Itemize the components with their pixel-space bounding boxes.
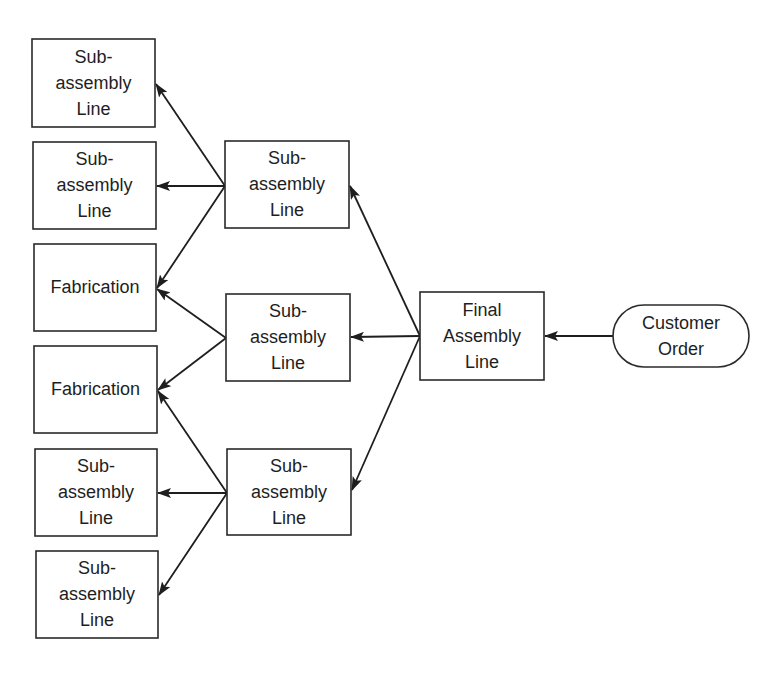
node-n_sub_l5: Sub-assemblyLine bbox=[35, 449, 157, 536]
node-label-line: Line bbox=[271, 353, 305, 373]
node-label-line: assembly bbox=[56, 175, 132, 195]
node-label-line: assembly bbox=[249, 174, 325, 194]
arrow-n_sub_m1-to-n_sub_l1 bbox=[156, 84, 225, 186]
arrow-n_sub_m2-to-n_fab_1 bbox=[157, 289, 226, 338]
node-n_sub_l1: Sub-assemblyLine bbox=[32, 39, 155, 127]
arrow-n_final-to-n_sub_m3 bbox=[352, 336, 420, 490]
arrow-n_sub_m1-to-n_fab_1 bbox=[157, 186, 225, 288]
node-label-line: Final bbox=[462, 300, 501, 320]
node-label-line: Fabrication bbox=[51, 379, 140, 399]
node-label-line: Line bbox=[76, 99, 110, 119]
node-label-line: Line bbox=[79, 508, 113, 528]
arrow-n_sub_m2-to-n_fab_2 bbox=[158, 338, 226, 390]
node-label-line: Customer bbox=[642, 313, 720, 333]
diagram-canvas: Sub-assemblyLineSub-assemblyLineFabricat… bbox=[0, 0, 784, 675]
node-n_sub_m3: Sub-assemblyLine bbox=[227, 449, 351, 535]
node-n_sub_m2: Sub-assemblyLine bbox=[226, 294, 350, 381]
node-label-line: Sub- bbox=[270, 456, 308, 476]
node-label-line: Sub- bbox=[75, 149, 113, 169]
node-n_customer: CustomerOrder bbox=[613, 305, 749, 367]
node-label-line: assembly bbox=[251, 482, 327, 502]
node-n_sub_l6: Sub-assemblyLine bbox=[36, 551, 158, 638]
arrow-n_final-to-n_sub_m1 bbox=[350, 186, 420, 336]
node-label-line: assembly bbox=[59, 584, 135, 604]
node-label-line: Sub- bbox=[74, 47, 112, 67]
node-label-line: Line bbox=[77, 201, 111, 221]
arrow-n_sub_m3-to-n_sub_l6 bbox=[159, 493, 227, 595]
node-n_sub_l2: Sub-assemblyLine bbox=[33, 142, 156, 229]
node-label-line: Line bbox=[465, 352, 499, 372]
node-label-line: Sub- bbox=[268, 148, 306, 168]
node-n_fab_2: Fabrication bbox=[34, 346, 157, 433]
node-label-line: Order bbox=[658, 339, 704, 359]
arrow-n_sub_m3-to-n_fab_2 bbox=[158, 391, 227, 493]
node-label-line: Sub- bbox=[78, 558, 116, 578]
node-label-line: assembly bbox=[58, 482, 134, 502]
node-label-line: Line bbox=[270, 200, 304, 220]
node-n_fab_1: Fabrication bbox=[34, 244, 156, 331]
nodes-layer: Sub-assemblyLineSub-assemblyLineFabricat… bbox=[32, 39, 749, 638]
node-label-line: assembly bbox=[250, 327, 326, 347]
node-n_final: FinalAssemblyLine bbox=[420, 292, 544, 380]
node-label-line: Assembly bbox=[443, 326, 521, 346]
node-label-line: Sub- bbox=[77, 456, 115, 476]
node-label-line: Line bbox=[80, 610, 114, 630]
node-label-line: Fabrication bbox=[50, 277, 139, 297]
arrow-n_final-to-n_sub_m2 bbox=[351, 336, 420, 337]
node-label-line: assembly bbox=[55, 73, 131, 93]
node-n_sub_m1: Sub-assemblyLine bbox=[225, 141, 349, 228]
node-label-line: Sub- bbox=[269, 301, 307, 321]
node-label-line: Line bbox=[272, 508, 306, 528]
